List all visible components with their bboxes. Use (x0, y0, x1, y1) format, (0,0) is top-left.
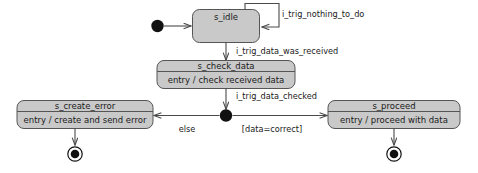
label-i-trig-data-checked: i_trig_data_checked (236, 91, 317, 101)
state-s-idle-title: s_idle (214, 12, 238, 22)
label-i-trig-data-was-received: i_trig_data_was_received (236, 46, 338, 56)
final-state-right (387, 147, 401, 161)
initial-state-dot (151, 20, 163, 32)
state-s-proceed-body: entry / proceed with data (340, 115, 448, 125)
label-else: else (179, 124, 196, 134)
final-state-left (68, 147, 82, 161)
label-i-trig-nothing-to-do: i_trig_nothing_to_do (282, 9, 364, 19)
label-data-correct-guard: [data=correct] (242, 124, 302, 134)
final-state-left-dot (71, 150, 80, 159)
final-state-right-dot (390, 150, 399, 159)
state-s-create-error-title: s_create_error (55, 101, 116, 111)
initial-state (151, 20, 163, 32)
state-s-check-data-title: s_check_data (198, 61, 255, 71)
uml-state-diagram: s_idle i_trig_nothing_to_do i_trig_data_… (0, 0, 478, 173)
state-s-create-error[interactable]: s_create_error entry / create and send e… (17, 101, 153, 129)
state-s-check-data-body: entry / check received data (168, 75, 285, 85)
state-s-proceed[interactable]: s_proceed entry / proceed with data (328, 101, 460, 129)
junction-point-dot (220, 109, 232, 121)
diagram-canvas: s_idle i_trig_nothing_to_do i_trig_data_… (0, 0, 478, 173)
state-s-idle[interactable]: s_idle (193, 10, 260, 43)
junction-point (220, 109, 232, 121)
state-s-check-data[interactable]: s_check_data entry / check received data (157, 61, 295, 89)
state-s-proceed-title: s_proceed (372, 101, 415, 111)
state-s-create-error-body: entry / create and send error (24, 115, 147, 125)
